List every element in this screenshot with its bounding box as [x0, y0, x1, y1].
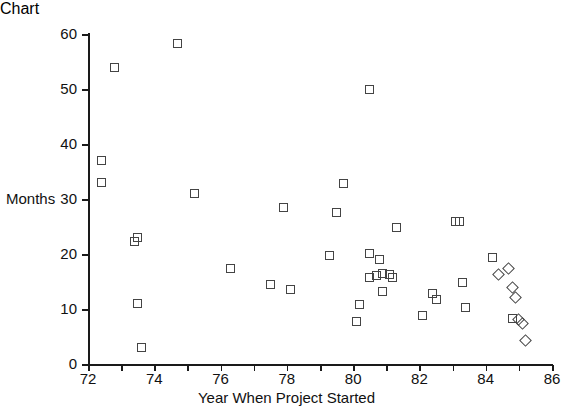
x-tick-79	[320, 365, 322, 371]
data-point	[266, 280, 275, 289]
y-tick-0	[82, 364, 88, 366]
y-tick-30	[82, 199, 88, 201]
data-point	[339, 179, 348, 188]
y-tick-20	[82, 254, 88, 256]
x-tick-label-80: 80	[333, 370, 373, 387]
y-tick-10	[82, 309, 88, 311]
data-point	[378, 287, 387, 296]
x-tick-label-82: 82	[399, 370, 439, 387]
data-point	[488, 253, 497, 262]
data-point	[332, 208, 341, 217]
data-point	[519, 335, 532, 348]
data-point	[352, 317, 361, 326]
data-point	[365, 85, 374, 94]
data-point	[461, 303, 470, 312]
x-tick-label-86: 86	[532, 370, 572, 387]
y-tick-60	[82, 34, 88, 36]
data-point	[97, 156, 106, 165]
x-tick-label-78: 78	[267, 370, 307, 387]
x-tick-label-74: 74	[134, 370, 174, 387]
x-tick-81	[386, 365, 388, 371]
data-point	[458, 278, 467, 287]
y-tick-40	[82, 144, 88, 146]
data-point	[226, 264, 235, 273]
data-point	[355, 300, 364, 309]
data-point	[279, 203, 288, 212]
data-point	[190, 189, 199, 198]
scatter-plot: 7274767880828486 0102030405060 Year When…	[0, 18, 573, 410]
data-point	[375, 255, 384, 264]
data-point	[130, 237, 139, 246]
y-tick-label-60: 60	[33, 25, 77, 42]
y-tick-label-20: 20	[33, 245, 77, 262]
x-axis-title: Year When Project Started	[0, 389, 573, 406]
x-tick-label-84: 84	[466, 370, 506, 387]
data-point	[365, 249, 374, 258]
data-point	[110, 63, 119, 72]
data-point	[325, 251, 334, 260]
y-axis-title: Months	[6, 190, 55, 207]
x-tick-83	[453, 365, 455, 371]
data-point	[418, 311, 427, 320]
data-point	[392, 223, 401, 232]
x-tick-73	[121, 365, 123, 371]
y-tick-label-10: 10	[33, 300, 77, 317]
data-point	[432, 295, 441, 304]
x-tick-85	[519, 365, 521, 371]
y-tick-label-50: 50	[33, 80, 77, 97]
data-point	[97, 178, 106, 187]
x-tick-75	[187, 365, 189, 371]
x-tick-label-76: 76	[201, 370, 241, 387]
data-point	[286, 285, 295, 294]
data-point	[137, 343, 146, 352]
y-tick-50	[82, 89, 88, 91]
y-tick-label-40: 40	[33, 135, 77, 152]
data-point	[503, 262, 516, 275]
y-tick-label-0: 0	[33, 355, 77, 372]
x-tick-77	[254, 365, 256, 371]
data-point	[133, 299, 142, 308]
data-point	[173, 39, 182, 48]
data-point	[455, 217, 464, 226]
x-tick-label-72: 72	[68, 370, 108, 387]
data-point	[388, 273, 397, 282]
y-axis-line	[88, 33, 90, 365]
